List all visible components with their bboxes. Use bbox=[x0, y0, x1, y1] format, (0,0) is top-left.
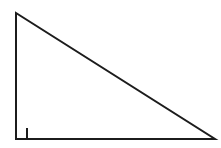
right-triangle-figure: Right triangle diagram bbox=[0, 0, 221, 148]
figure-canvas: Right triangle diagram bbox=[0, 0, 221, 148]
